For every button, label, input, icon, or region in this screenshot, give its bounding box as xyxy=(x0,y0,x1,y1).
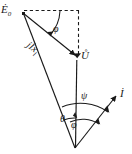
angle-label-theta: θ xyxy=(60,114,65,124)
angle-label-phi-top: φ xyxy=(53,24,59,34)
angle-label-psi: ψ xyxy=(81,91,87,101)
emf-label: Ė0 xyxy=(1,4,11,18)
angle-arc-theta-arrowhead xyxy=(73,112,77,118)
angle-arc-psi xyxy=(62,103,108,112)
voltage-label: Ů xyxy=(81,50,89,61)
phasor-diagram-canvas xyxy=(0,0,132,154)
phasor-diagram: Ė0 Ů İ jİxl φ ψ θ φ xyxy=(0,0,132,154)
angle-label-phi-bottom: φ xyxy=(71,120,77,130)
current-label: İ xyxy=(120,88,124,99)
emf-symbol: Ė xyxy=(1,3,8,15)
emf-subscript: 0 xyxy=(8,10,12,18)
